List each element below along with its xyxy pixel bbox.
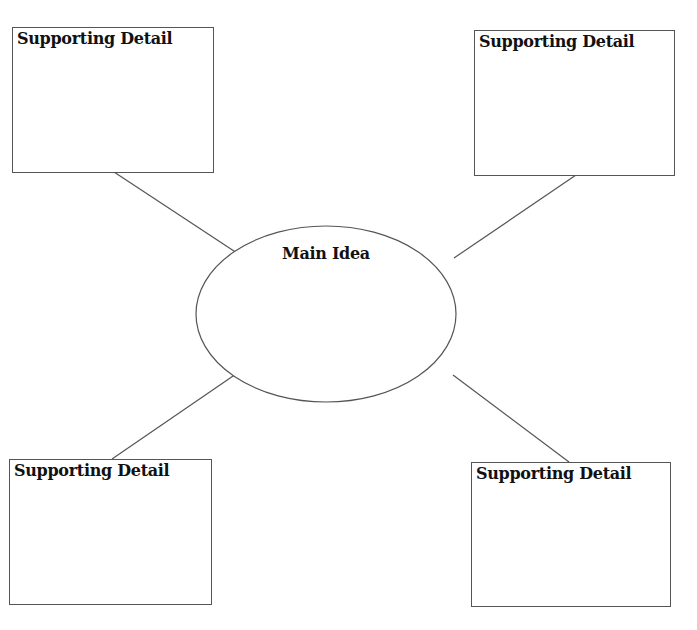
supporting-detail-label: Supporting Detail [17,29,172,48]
main-idea-label: Main Idea [256,244,396,263]
connector-bottom-right [453,375,569,462]
connector-top-right [454,175,576,258]
supporting-detail-box-bottom-right[interactable]: Supporting Detail [471,462,671,607]
supporting-detail-box-top-right[interactable]: Supporting Detail [474,30,675,176]
connector-bottom-left [112,374,236,459]
connector-top-left [114,172,240,255]
supporting-detail-box-top-left[interactable]: Supporting Detail [12,27,214,173]
supporting-detail-label: Supporting Detail [479,32,634,51]
supporting-detail-box-bottom-left[interactable]: Supporting Detail [9,459,212,605]
supporting-detail-label: Supporting Detail [476,464,631,483]
supporting-detail-label: Supporting Detail [14,461,169,480]
